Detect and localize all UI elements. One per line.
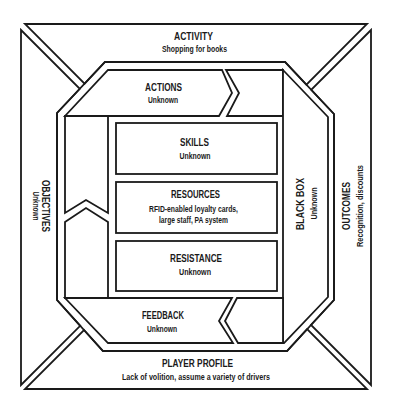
resources-box: RESOURCES RFID-enabled loyalty cards, la…: [116, 182, 277, 233]
activity-value: Shopping for books: [162, 43, 227, 54]
resources-value-line-1: RFID-enabled loyalty cards,: [149, 203, 238, 214]
outcomes-title: OUTCOMES: [340, 182, 352, 230]
skills-title: SKILLS: [180, 136, 209, 148]
resources-value-line-2: large staff, PA system: [159, 214, 228, 225]
black-box-shape: [283, 70, 328, 343]
player-profile-value: Lack of volition, assume a variety of dr…: [122, 371, 270, 382]
game-design-diagram: ACTIVITY Shopping for books OUTCOMES Rec…: [0, 0, 394, 416]
feedback-value: Unknown: [147, 323, 177, 334]
resistance-box: RESISTANCE Unknown: [116, 241, 277, 291]
player-profile-title: PLAYER PROFILE: [162, 357, 233, 369]
black-box-bottom-connector: [225, 298, 283, 343]
resistance-value: Unknown: [179, 266, 211, 277]
skills-value: Unknown: [180, 150, 211, 161]
left-column-upper-connector: [65, 116, 108, 213]
actions-value: Unknown: [148, 94, 178, 105]
feedback-title: FEEDBACK: [142, 309, 184, 321]
resistance-title: RESISTANCE: [170, 252, 222, 264]
activity-title: ACTIVITY: [174, 30, 213, 42]
left-column-lower-arrow: [65, 208, 108, 298]
black-box-top-connector: [226, 70, 283, 116]
objectives-value: Unknown: [31, 192, 42, 221]
skills-box-shape: [116, 123, 277, 174]
actions-title: ACTIONS: [145, 81, 182, 93]
black-box-title: BLACK BOX: [294, 178, 306, 230]
black-box-value: Unknown: [308, 187, 319, 219]
resources-title: RESOURCES: [171, 188, 220, 200]
skills-box: SKILLS Unknown: [116, 123, 277, 174]
outcomes-value: Recognition, discounts: [354, 165, 365, 247]
black-box-region: BLACK BOX Unknown: [283, 70, 328, 343]
